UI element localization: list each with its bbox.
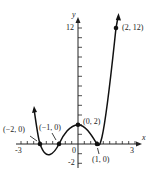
y-axis	[76, 17, 83, 168]
point-label-0-2: (0, 2)	[83, 118, 100, 126]
y-tick-neg2: -2	[68, 159, 75, 167]
y-arrow-icon	[76, 17, 81, 23]
curve-right-arrow-icon	[116, 13, 121, 21]
point-label-neg1-0: (−1, 0)	[39, 124, 61, 132]
curve-left-arrow-icon	[32, 106, 37, 113]
x-tick-0: 0	[72, 147, 76, 155]
x-axis	[16, 141, 142, 147]
point-label-2-12: (2, 12)	[122, 24, 143, 32]
polynomial-curve	[34, 17, 118, 155]
x-arrow-icon	[136, 142, 142, 147]
y-tick-12: 12	[66, 24, 74, 32]
x-tick-neg3: -3	[15, 147, 22, 155]
point-label-1-0: (1, 0)	[92, 156, 109, 164]
x-axis-label: x	[142, 134, 146, 142]
x-tick-3: 3	[130, 147, 134, 155]
y-axis-label: y	[72, 11, 76, 19]
point-label-neg2-0: (−2, 0)	[3, 126, 25, 134]
